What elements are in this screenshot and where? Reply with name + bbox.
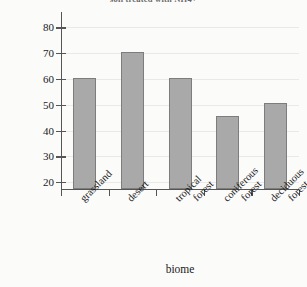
plot-area: 20304050607080 xyxy=(61,12,299,190)
gridline xyxy=(62,53,299,54)
bar xyxy=(73,78,96,189)
y-tick-label: 60 xyxy=(43,73,54,85)
y-tick-mark xyxy=(56,27,66,28)
y-tick-mark xyxy=(56,156,66,157)
bar xyxy=(169,78,192,189)
y-tick-label: 30 xyxy=(43,150,54,162)
y-tick-mark xyxy=(56,105,66,106)
y-tick-mark xyxy=(56,79,66,80)
chart-title: soil treated with NH4+ xyxy=(0,0,307,2)
y-tick-mark xyxy=(56,53,66,54)
y-axis-line xyxy=(61,12,62,190)
gridline xyxy=(62,27,299,28)
y-tick-label: 50 xyxy=(43,99,54,111)
y-tick-mark xyxy=(56,182,66,183)
bar xyxy=(264,103,287,188)
bar xyxy=(121,52,144,189)
x-tick-mark xyxy=(156,190,157,196)
y-tick-label: 40 xyxy=(43,125,54,137)
y-tick-mark xyxy=(56,131,66,132)
y-tick-label: 20 xyxy=(43,176,54,188)
x-tick-mark xyxy=(61,190,62,196)
x-axis-title: biome xyxy=(61,263,299,275)
y-tick-label: 80 xyxy=(43,21,54,33)
bar-chart-figure: soil treated with NH4+ % of ammonium con… xyxy=(0,0,307,287)
x-tick-mark xyxy=(109,190,110,196)
y-tick-label: 70 xyxy=(43,47,54,59)
bar xyxy=(216,116,239,188)
